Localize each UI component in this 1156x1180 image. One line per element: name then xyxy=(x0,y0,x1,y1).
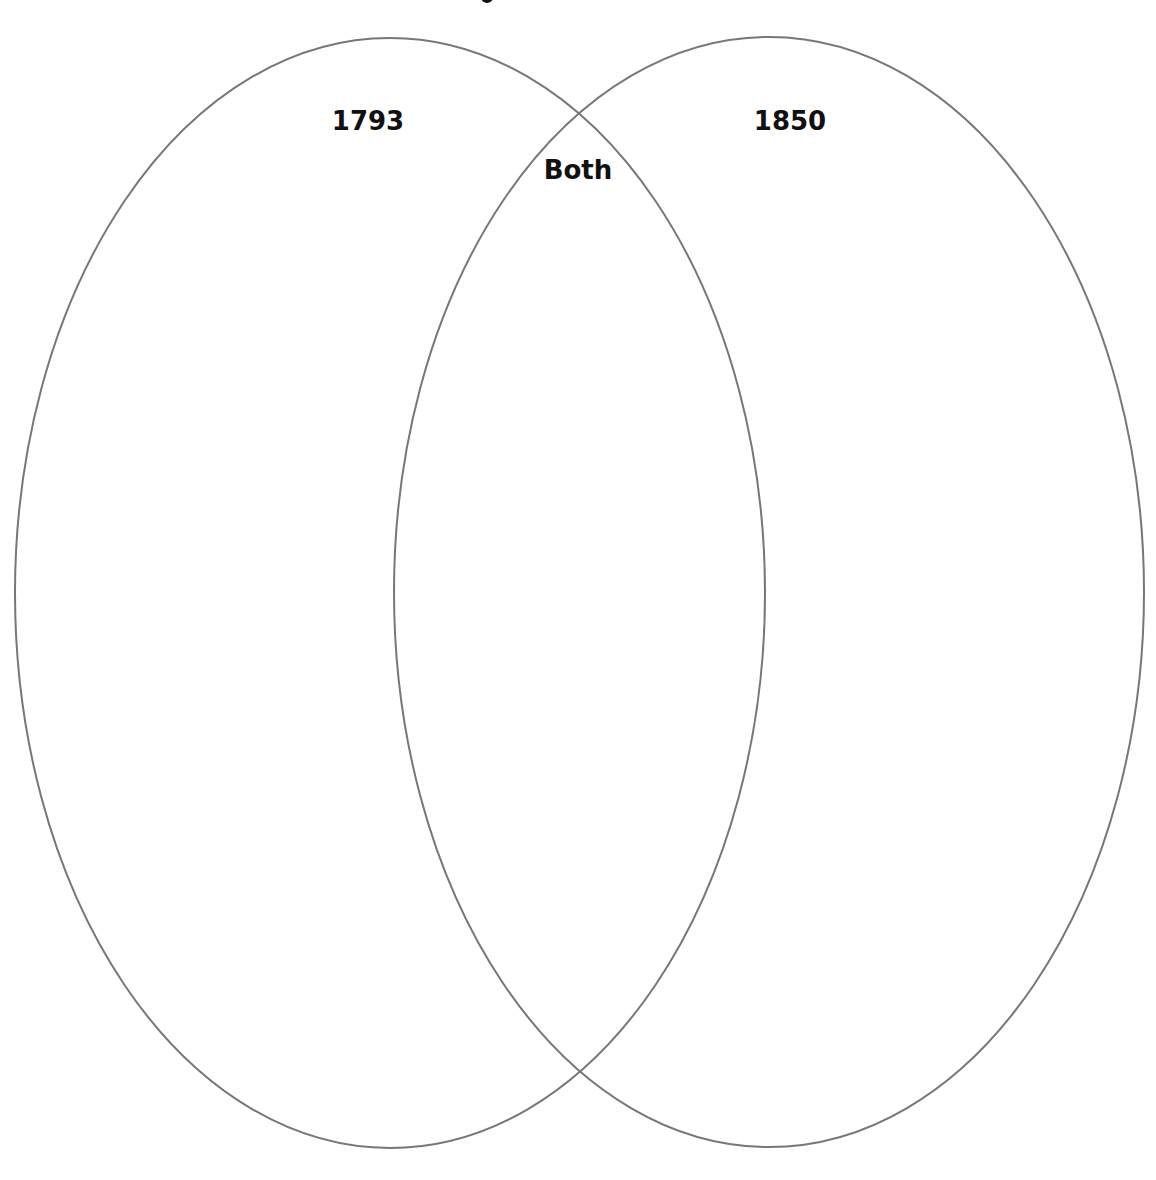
clipped-title-glyph xyxy=(481,0,493,3)
set-1850-ellipse xyxy=(394,37,1144,1147)
set-label-1793: 1793 xyxy=(332,106,404,136)
intersection-label-both: Both xyxy=(544,155,613,185)
set-label-1850: 1850 xyxy=(754,106,826,136)
set-1793-ellipse xyxy=(15,38,765,1148)
